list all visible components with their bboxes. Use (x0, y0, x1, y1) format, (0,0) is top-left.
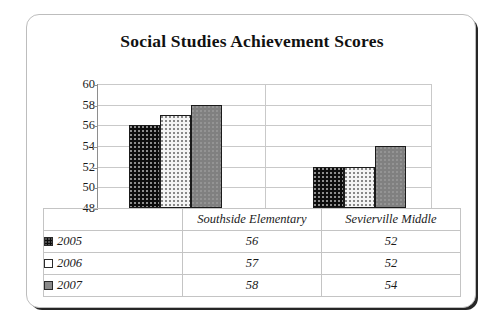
y-tick-label: 58 (63, 97, 95, 112)
legend-item-2007: 2007 (44, 275, 183, 297)
cell-2005-southside: 56 (183, 231, 322, 253)
bar-2006-sevierville (344, 167, 375, 208)
y-axis: 60 58 56 54 52 50 48 (63, 84, 95, 208)
category-header-sevierville: Sevierville Middle (322, 209, 461, 231)
bar-2006-southside (160, 115, 191, 208)
data-table: Southside Elementary Sevierville Middle … (43, 208, 461, 297)
cell-2005-sevierville: 52 (322, 231, 461, 253)
legend-label-2007: 2007 (57, 278, 82, 292)
plot-right-edge (431, 84, 432, 208)
y-tick-label: 56 (63, 118, 95, 133)
bar-2005-southside (129, 125, 160, 208)
group-divider (265, 84, 266, 208)
legend-label-2006: 2006 (57, 256, 82, 270)
chart-title: Social Studies Achievement Scores (27, 31, 477, 52)
legend-item-2006: 2006 (44, 253, 183, 275)
y-tick-label: 54 (63, 139, 95, 154)
y-tick-label: 52 (63, 159, 95, 174)
bar-2007-sevierville (375, 146, 406, 208)
table-row: 2006 57 52 (44, 253, 461, 275)
chart-plot: 60 58 56 54 52 50 48 (63, 84, 443, 212)
bar-2005-sevierville (313, 167, 344, 208)
cell-2006-southside: 57 (183, 253, 322, 275)
y-tick-label: 50 (63, 180, 95, 195)
table-corner-cell (44, 209, 183, 231)
plot-area (97, 84, 432, 208)
cell-2007-sevierville: 54 (322, 275, 461, 297)
legend-swatch-icon-2007 (44, 281, 53, 290)
table-row-categories: Southside Elementary Sevierville Middle (44, 209, 461, 231)
cell-2007-southside: 58 (183, 275, 322, 297)
table-row: 2007 58 54 (44, 275, 461, 297)
legend-swatch-icon-2006 (44, 259, 53, 268)
table-row: 2005 56 52 (44, 231, 461, 253)
bar-2007-southside (191, 105, 222, 208)
legend-item-2005: 2005 (44, 231, 183, 253)
cell-2006-sevierville: 52 (322, 253, 461, 275)
category-header-southside: Southside Elementary (183, 209, 322, 231)
legend-label-2005: 2005 (57, 234, 82, 248)
y-tick-label: 60 (63, 77, 95, 92)
legend-swatch-icon-2005 (44, 237, 53, 246)
chart-card: Social Studies Achievement Scores 60 58 … (26, 14, 476, 308)
